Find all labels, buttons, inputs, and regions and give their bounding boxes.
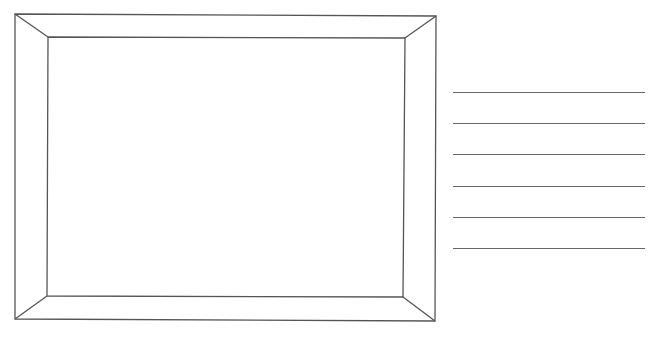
frame-bevel-bottom-right <box>403 297 435 321</box>
frame-bevel-bottom-left <box>15 296 47 319</box>
frame-diagram <box>0 0 649 338</box>
frame-inner-border <box>47 37 405 297</box>
frame-bevel-top-right <box>405 16 436 38</box>
frame-outer-border <box>15 14 436 321</box>
frame-bevel-top-left <box>15 14 48 37</box>
writing-lines <box>453 93 645 249</box>
picture-frame <box>15 14 436 321</box>
